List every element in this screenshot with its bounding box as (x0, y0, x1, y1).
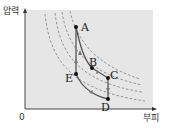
point-label-b: B (89, 57, 97, 68)
point-label-d: D (101, 102, 110, 113)
point-label-e: E (65, 73, 73, 84)
origin-label: 0 (19, 113, 25, 122)
point-label-c: C (110, 70, 118, 81)
point-label-a: A (81, 22, 89, 33)
y-axis-label: 압력 (3, 7, 19, 16)
x-axis-arrow-icon (152, 107, 157, 111)
pv-diagram (0, 0, 169, 130)
x-axis-label: 부피 (143, 114, 159, 123)
